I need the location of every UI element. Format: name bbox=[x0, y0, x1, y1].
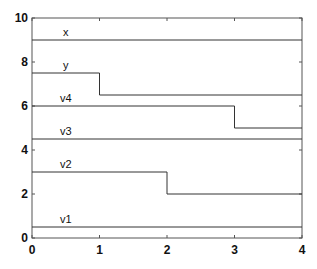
series-label-v4: v4 bbox=[60, 92, 72, 104]
series-label-y: y bbox=[63, 59, 69, 71]
x-tick-label: 4 bbox=[299, 243, 306, 257]
y-tick-label: 4 bbox=[21, 143, 28, 157]
series-labels: xyv4v3v2v1 bbox=[60, 26, 72, 225]
x-tick-label: 1 bbox=[96, 243, 103, 257]
series-label-x: x bbox=[63, 26, 69, 38]
series-line-v2 bbox=[32, 172, 302, 194]
y-tick-label: 0 bbox=[21, 231, 28, 245]
series-label-v2: v2 bbox=[60, 158, 72, 170]
step-chart: 01234 0246810 xyv4v3v2v1 bbox=[0, 0, 317, 269]
y-tick-label: 2 bbox=[21, 187, 28, 201]
series-line-v4 bbox=[32, 106, 302, 128]
x-tick-label: 3 bbox=[231, 243, 238, 257]
y-tick-label: 6 bbox=[21, 99, 28, 113]
x-tick-label: 0 bbox=[29, 243, 36, 257]
series-label-v3: v3 bbox=[60, 125, 72, 137]
series-label-v1: v1 bbox=[60, 213, 72, 225]
x-tick-label: 2 bbox=[164, 243, 171, 257]
y-tick-label: 8 bbox=[21, 55, 28, 69]
y-tick-label: 10 bbox=[15, 11, 29, 25]
series-line-y bbox=[32, 73, 302, 95]
series-lines bbox=[32, 40, 302, 227]
